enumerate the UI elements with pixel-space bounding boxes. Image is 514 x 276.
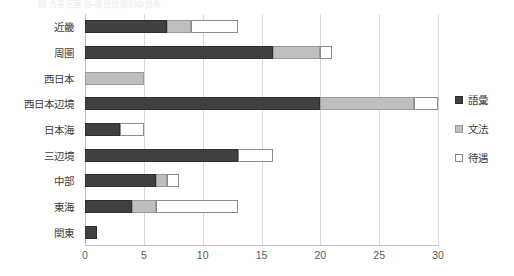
bar-segment-待遇 (414, 97, 438, 110)
bar-segment-語彙 (85, 226, 97, 239)
x-axis-tick-label: 20 (314, 249, 326, 261)
bar-segment-待遇 (320, 46, 332, 59)
bar-track (85, 46, 332, 59)
bar-row (85, 117, 438, 143)
bar-segment-語彙 (85, 123, 120, 136)
x-axis-tick-label: 0 (82, 249, 88, 261)
bar-segment-語彙 (85, 174, 156, 187)
bar-track (85, 149, 273, 162)
bar-row (85, 91, 438, 117)
legend-label: 待遇 (468, 150, 488, 165)
bar-segment-文法 (273, 46, 320, 59)
y-axis-label: 西日本辺境 (24, 91, 74, 117)
bar-segment-語彙 (85, 20, 167, 33)
bars-layer (85, 14, 438, 245)
x-axis-tick-label: 30 (432, 249, 444, 261)
bar-track (85, 20, 238, 33)
bar-segment-語彙 (85, 149, 238, 162)
legend-item-語彙[interactable]: 語彙 (455, 92, 513, 107)
bar-track (85, 123, 144, 136)
bar-segment-文法 (156, 174, 168, 187)
bar-row (85, 142, 438, 168)
bar-segment-待遇 (167, 174, 179, 187)
bar-row (85, 219, 438, 245)
stacked-bar-chart: 図 方言区画別・項目分類別の分布 近畿周圏西日本西日本辺境日本海三辺境中部東海関… (0, 0, 514, 276)
bar-segment-待遇 (120, 123, 144, 136)
bar-segment-待遇 (238, 149, 273, 162)
bar-track (85, 97, 438, 110)
y-axis-label: 関東 (54, 219, 74, 245)
x-axis-tick-labels: 051015202530 (85, 249, 439, 265)
legend-item-文法[interactable]: 文法 (455, 121, 513, 136)
legend-swatch-icon (455, 125, 463, 133)
bar-segment-待遇 (156, 200, 238, 213)
y-axis-category-labels: 近畿周圏西日本西日本辺境日本海三辺境中部東海関東 (0, 14, 80, 245)
bar-segment-待遇 (191, 20, 238, 33)
x-axis-tick-label: 5 (141, 249, 147, 261)
y-axis-label: 周圏 (54, 40, 74, 66)
legend: 語彙文法待遇 (455, 92, 513, 165)
bar-track (85, 226, 97, 239)
bar-track (85, 72, 144, 85)
y-axis-label: 近畿 (54, 14, 74, 40)
x-axis-line (85, 245, 439, 246)
bar-segment-文法 (85, 72, 144, 85)
gridline-30 (438, 14, 439, 245)
legend-swatch-icon (455, 154, 463, 162)
bar-segment-文法 (132, 200, 156, 213)
y-axis-label: 中部 (54, 168, 74, 194)
figure-caption: 図 方言区画別・項目分類別の分布 (0, 0, 514, 9)
legend-label: 語彙 (468, 92, 488, 107)
bar-track (85, 200, 238, 213)
bar-track (85, 174, 179, 187)
x-axis-tick-label: 15 (256, 249, 268, 261)
bar-segment-語彙 (85, 200, 132, 213)
y-axis-label: 日本海 (44, 117, 74, 143)
legend-swatch-icon (455, 96, 463, 104)
bar-row (85, 194, 438, 220)
plot-area (85, 14, 438, 245)
bar-segment-文法 (167, 20, 191, 33)
y-axis-label: 西日本 (44, 65, 74, 91)
bar-row (85, 14, 438, 40)
bar-row (85, 65, 438, 91)
y-axis-label: 三辺境 (44, 142, 74, 168)
bar-row (85, 168, 438, 194)
bar-segment-文法 (320, 97, 414, 110)
legend-label: 文法 (468, 121, 488, 136)
bar-segment-語彙 (85, 46, 273, 59)
y-axis-label: 東海 (54, 194, 74, 220)
x-axis-tick-label: 10 (197, 249, 209, 261)
bar-row (85, 40, 438, 66)
bar-segment-語彙 (85, 97, 320, 110)
legend-item-待遇[interactable]: 待遇 (455, 150, 513, 165)
x-axis-tick-label: 25 (373, 249, 385, 261)
